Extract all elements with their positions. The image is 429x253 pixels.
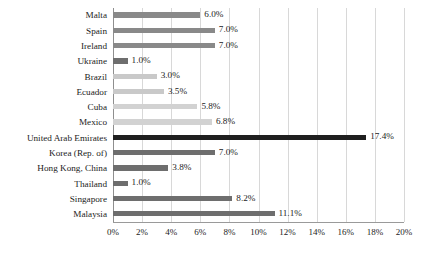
gridline [404, 8, 405, 222]
bar-row: 7.0% [113, 146, 404, 161]
bar-row: 8.2% [113, 191, 404, 206]
category-label: Mexico [79, 117, 107, 127]
bar-value-label: 7.0% [219, 23, 238, 36]
bar-row: 5.8% [113, 100, 404, 115]
category-label: Thailand [74, 179, 107, 189]
category-axis-labels: MaltaSpainIrelandUkraineBrazilEcuadorCub… [0, 8, 112, 222]
bar [113, 119, 212, 124]
x-tick-label: 6% [194, 225, 206, 239]
x-tick-label: 2% [136, 225, 148, 239]
bar-value-label: 6.0% [204, 8, 223, 21]
bar [113, 135, 366, 140]
bar [113, 58, 128, 63]
x-tick-label: 12% [279, 225, 296, 239]
bar-value-label: 3.8% [172, 161, 191, 174]
bar-value-label: 3.0% [161, 69, 180, 82]
bar-row: 3.8% [113, 161, 404, 176]
bar-value-label: 1.0% [132, 54, 151, 67]
bar [113, 165, 168, 170]
bar-row: 1.0% [113, 176, 404, 191]
bar-value-label: 11.1% [279, 207, 302, 220]
bar-row: 6.8% [113, 115, 404, 130]
bar-row: 1.0% [113, 54, 404, 69]
bar-row: 11.1% [113, 207, 404, 222]
category-label: Ukraine [77, 56, 107, 66]
bar-value-label: 8.2% [236, 192, 255, 205]
plot-area: 6.0%7.0%7.0%1.0%3.0%3.5%5.8%6.8%17.4%7.0… [113, 8, 404, 222]
x-tick-label: 18% [367, 225, 384, 239]
bar-row: 3.0% [113, 69, 404, 84]
bar [113, 12, 200, 17]
category-label: Malaysia [73, 209, 107, 219]
category-label: United Arab Emirates [27, 133, 107, 143]
bar [113, 104, 197, 109]
bar-row: 7.0% [113, 39, 404, 54]
bar-value-label: 5.8% [201, 100, 220, 113]
bar [113, 211, 275, 216]
bar [113, 74, 157, 79]
bar-value-label: 17.4% [370, 130, 394, 143]
bar [113, 28, 215, 33]
x-tick-label: 8% [223, 225, 235, 239]
category-label: Ireland [81, 41, 107, 51]
bar [113, 181, 128, 186]
bar-row: 3.5% [113, 84, 404, 99]
category-label: Malta [86, 10, 107, 20]
x-tick-label: 20% [396, 225, 413, 239]
x-tick-label: 0% [107, 225, 119, 239]
bar-row: 6.0% [113, 8, 404, 23]
bar [113, 43, 215, 48]
x-axis-line [113, 222, 404, 223]
bar-value-label: 7.0% [219, 39, 238, 52]
category-label: Hong Kong, China [37, 163, 107, 173]
category-label: Brazil [85, 72, 107, 82]
category-label: Ecuador [76, 87, 107, 97]
x-axis-tick-labels: 0%2%4%6%8%10%12%14%16%18%20% [113, 225, 404, 241]
x-tick-label: 10% [250, 225, 267, 239]
bar-value-label: 1.0% [132, 176, 151, 189]
x-tick-label: 4% [165, 225, 177, 239]
bar [113, 196, 232, 201]
category-label: Cuba [88, 102, 107, 112]
bar-value-label: 6.8% [216, 115, 235, 128]
x-tick-label: 16% [338, 225, 355, 239]
horizontal-bar-chart: MaltaSpainIrelandUkraineBrazilEcuadorCub… [0, 0, 429, 253]
bar-series: 6.0%7.0%7.0%1.0%3.0%3.5%5.8%6.8%17.4%7.0… [113, 8, 404, 222]
bar [113, 150, 215, 155]
category-label: Spain [86, 26, 107, 36]
x-tick-label: 14% [308, 225, 325, 239]
category-label: Singapore [70, 194, 107, 204]
bar-row: 17.4% [113, 130, 404, 145]
category-label: Korea (Rep. of) [49, 148, 107, 158]
bar-value-label: 7.0% [219, 146, 238, 159]
bar [113, 89, 164, 94]
bar-row: 7.0% [113, 23, 404, 38]
bar-value-label: 3.5% [168, 85, 187, 98]
